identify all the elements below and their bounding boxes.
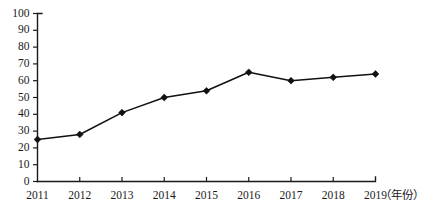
- y-tick-label-20: 20: [18, 141, 30, 153]
- x-tick-label-2017: 2017: [280, 189, 303, 201]
- x-tick-label-2015: 2015: [195, 189, 218, 201]
- data-point-2013: [119, 109, 126, 116]
- x-tick-label-2013: 2013: [111, 189, 134, 201]
- y-tick-label-60: 60: [18, 74, 30, 86]
- data-series-line: [38, 72, 376, 139]
- data-point-2016: [245, 69, 252, 76]
- y-tick-label-50: 50: [18, 91, 30, 103]
- y-tick-label-100: 100: [12, 7, 30, 19]
- x-tick-label-2018: 2018: [322, 189, 345, 201]
- x-tick-label-2016: 2016: [237, 189, 260, 201]
- data-point-2012: [76, 131, 83, 138]
- x-tick-label-2012: 2012: [68, 189, 91, 201]
- y-tick-label-90: 90: [18, 23, 30, 35]
- y-axis-tick-labels: 0102030405060708090100: [12, 7, 30, 187]
- y-axis-line: [38, 14, 43, 182]
- x-tick-label-2011: 2011: [26, 189, 49, 201]
- y-tick-label-0: 0: [24, 175, 30, 187]
- x-axis-tick-labels: 201120122013201420152016201720182019: [26, 189, 387, 201]
- chart-canvas: 0102030405060708090100 20112012201320142…: [0, 0, 428, 220]
- line-chart: 0102030405060708090100 20112012201320142…: [0, 0, 428, 220]
- data-point-2011: [34, 136, 41, 143]
- y-tick-label-40: 40: [18, 107, 30, 119]
- y-tick-label-10: 10: [18, 158, 30, 170]
- x-axis-unit-label: （年份）: [380, 188, 424, 201]
- y-tick-label-80: 80: [18, 40, 30, 52]
- y-tick-label-30: 30: [18, 124, 30, 136]
- data-point-2019: [372, 71, 379, 78]
- x-tick-label-2014: 2014: [153, 189, 176, 201]
- data-point-2014: [161, 94, 168, 101]
- y-tick-label-70: 70: [18, 57, 30, 69]
- data-point-2017: [288, 77, 295, 84]
- data-point-2015: [203, 87, 210, 94]
- data-point-2018: [330, 74, 337, 81]
